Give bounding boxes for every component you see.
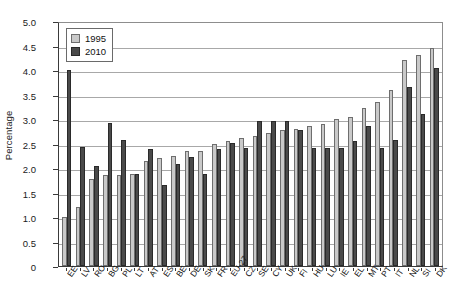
bar-2010-DK — [434, 68, 439, 266]
y-axis-tick-label: 4.0 — [2, 66, 36, 77]
bar-2010-DE — [189, 157, 194, 266]
bar-2010-RO — [94, 166, 99, 266]
bar-group — [291, 23, 305, 266]
bar-group — [155, 23, 169, 266]
x-axis-tick: CZ — [237, 268, 251, 305]
x-axis-tick: FI — [291, 268, 305, 305]
bar-2010-FR — [217, 149, 222, 266]
x-axis-tick: SK — [196, 268, 210, 305]
bar-2010-AT — [148, 149, 153, 266]
legend-item-2010: 2010 — [71, 45, 106, 58]
bar-2010-LV — [80, 147, 85, 266]
x-axis-tick: ES — [155, 268, 169, 305]
x-axis-tick: MT — [360, 268, 374, 305]
bar-2010-IE — [339, 148, 344, 266]
bar-group — [142, 23, 156, 266]
bar-2010-PT — [380, 148, 385, 266]
bar-2010-PL — [121, 140, 126, 266]
x-axis-tick: EU-27 — [223, 268, 237, 305]
y-axis-tick-label: 0.5 — [2, 237, 36, 248]
x-axis-tick: BE — [168, 268, 182, 305]
x-axis-tick: BG — [100, 268, 114, 305]
legend-label-2010: 2010 — [85, 46, 106, 57]
bar-group — [196, 23, 210, 266]
bar-2010-ES — [162, 185, 167, 266]
bar-group — [169, 23, 183, 266]
bar-2010-IT — [393, 140, 398, 266]
x-axis-tick: AT — [141, 268, 155, 305]
x-axis-tick: FR — [209, 268, 223, 305]
legend-label-1995: 1995 — [85, 33, 106, 44]
x-axis-tick: RO — [86, 268, 100, 305]
plot-area — [58, 22, 443, 267]
y-axis-tick-label: 2.0 — [2, 164, 36, 175]
x-axis-tick: IT — [387, 268, 401, 305]
bar-2010-FI — [298, 130, 303, 266]
bar-2010-UK — [285, 121, 290, 266]
bar-group — [264, 23, 278, 266]
x-axis-tick: SE — [250, 268, 264, 305]
bar-2010-BE — [176, 164, 181, 266]
bar-2010-NL — [407, 87, 412, 266]
bar-group — [210, 23, 224, 266]
x-axis-tick: CY — [264, 268, 278, 305]
bar-groups — [59, 23, 442, 266]
bar-group — [305, 23, 319, 266]
bar-group — [427, 23, 441, 266]
y-axis-tick-label: 0 — [2, 262, 36, 273]
x-axis-tick: DK — [428, 268, 442, 305]
legend-item-1995: 1995 — [71, 32, 106, 45]
x-axis-tick: DE — [182, 268, 196, 305]
bar-group — [278, 23, 292, 266]
x-axis-tick: PL — [114, 268, 128, 305]
bar-2010-EL — [353, 141, 358, 266]
bar-group — [223, 23, 237, 266]
x-axis-tick: SI — [414, 268, 428, 305]
chart-legend: 1995 2010 — [66, 28, 113, 62]
bar-2010-MT — [366, 126, 371, 266]
bar-2010-SI — [421, 114, 426, 266]
x-axis-tick: LV — [73, 268, 87, 305]
bar-2010-EU-27 — [230, 143, 235, 266]
bar-group — [237, 23, 251, 266]
bar-group — [114, 23, 128, 266]
x-axis-tick-labels: EELVROBGPLLTATESBEDESKFREU-27CZSECYUKFIH… — [58, 268, 443, 305]
y-axis-tick-label: 5.0 — [2, 17, 36, 28]
bar-2010-SE — [257, 121, 262, 266]
bar-2010-CY — [271, 121, 276, 266]
y-axis-tick-label: 4.5 — [2, 41, 36, 52]
bar-group — [332, 23, 346, 266]
bar-2010-HU — [312, 148, 317, 266]
bar-group — [251, 23, 265, 266]
y-axis-tick-label: 1.5 — [2, 188, 36, 199]
bar-2010-LU — [325, 148, 330, 266]
y-axis-tick-label: 3.5 — [2, 90, 36, 101]
bar-chart: Percentage 5.04.54.03.53.02.52.01.51.00.… — [0, 0, 457, 305]
bar-group — [414, 23, 428, 266]
bar-group — [373, 23, 387, 266]
bar-group — [182, 23, 196, 266]
bar-2010-SK — [203, 174, 208, 266]
bar-group — [400, 23, 414, 266]
x-axis-tick: LT — [127, 268, 141, 305]
bar-group — [128, 23, 142, 266]
bar-group — [319, 23, 333, 266]
y-axis-tick-label: 3.0 — [2, 115, 36, 126]
x-axis-tick: NL — [401, 268, 415, 305]
legend-swatch-2010 — [71, 47, 80, 56]
x-axis-tick: EL — [346, 268, 360, 305]
bar-2010-BG — [108, 123, 113, 266]
x-axis-tick: HU — [305, 268, 319, 305]
x-axis-tick: IE — [332, 268, 346, 305]
y-axis-tick-label: 1.0 — [2, 213, 36, 224]
bar-group — [359, 23, 373, 266]
legend-swatch-1995 — [71, 34, 80, 43]
y-axis-tick-label: 2.5 — [2, 139, 36, 150]
bar-2010-EE — [67, 70, 72, 266]
bar-2010-CZ — [244, 148, 249, 266]
x-axis-tick: LU — [319, 268, 333, 305]
x-axis-tick: EE — [59, 268, 73, 305]
bar-2010-LT — [135, 174, 140, 266]
bar-group — [387, 23, 401, 266]
bar-group — [346, 23, 360, 266]
